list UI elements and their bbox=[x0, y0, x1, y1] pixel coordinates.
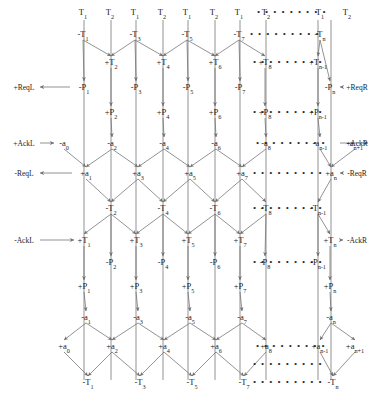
label-minus-reqr: -ReqR bbox=[347, 169, 367, 178]
node-row-minus-P-odd-2: -P5 bbox=[183, 83, 194, 92]
e-ma-pa-2 bbox=[112, 149, 138, 167]
e-mT-pT-4 bbox=[187, 40, 215, 56]
e-pa-mTe-1 bbox=[111, 179, 138, 202]
node-row-plus-P-odd-4: +Pn bbox=[324, 282, 337, 291]
node-row-plus-T-odd-4: +Tn bbox=[323, 236, 336, 245]
node-row-plus-a-even-6: +an+1 bbox=[346, 342, 364, 351]
node-row-minus-T-even-0: -T2 bbox=[105, 204, 116, 213]
e-pa-mTe-4 bbox=[190, 179, 215, 202]
e-mT-pT-2 bbox=[135, 40, 163, 56]
e-ma-pa-4 bbox=[164, 149, 190, 167]
node-row-minus-a-odd-0: -a1 bbox=[81, 313, 91, 322]
e-mTe-pTo-3 bbox=[163, 214, 188, 234]
node-row-plus-T-even-0: +T2 bbox=[104, 58, 117, 67]
node-row-minus-T-odd-2: -T5 bbox=[181, 30, 192, 39]
dots-row-plus-T-even: • • • • • • • • • bbox=[253, 57, 323, 67]
node-row-minus-a-even-3: -a6 bbox=[211, 139, 221, 148]
top-label-2: T1 bbox=[131, 8, 139, 17]
node-row-minus-T-bottom-0: -T1 bbox=[82, 378, 93, 387]
top-label-3: T2 bbox=[158, 8, 166, 17]
dots-row-plus-a-even: • • • • • • • • • bbox=[256, 341, 326, 351]
node-row-minus-a-odd-3: -a7 bbox=[237, 313, 247, 322]
e-pa-mTe-6 bbox=[242, 179, 266, 202]
e-mao-pae-0 bbox=[64, 323, 86, 340]
node-row-plus-P-even-0: +P2 bbox=[105, 108, 118, 117]
dots-row-plus-a-odd: • • • • • • • • • bbox=[253, 168, 323, 178]
e-mT-pT-5 bbox=[215, 40, 239, 56]
e-mao-pae-8 bbox=[320, 323, 331, 340]
node-row-plus-P-even-1: +P4 bbox=[157, 108, 170, 117]
dots-row-minus-T-bottom: • • • • • • • • • bbox=[253, 377, 323, 387]
label-minus-ackr: -AckR bbox=[347, 236, 367, 245]
e-mTe-pTo-0 bbox=[84, 214, 111, 234]
e-ma-pa-8 bbox=[320, 149, 331, 167]
dots-bottom-mid: • • • • • • • • • bbox=[253, 359, 323, 369]
e-mT-pT-3 bbox=[163, 40, 187, 56]
e-mTe-pTo-6 bbox=[240, 214, 266, 234]
e-ma-pa-7 bbox=[242, 149, 266, 167]
e-pa-mTe-0 bbox=[86, 179, 111, 202]
e-mT-pT-0 bbox=[83, 40, 111, 56]
node-row-plus-T-even-2: +T6 bbox=[208, 58, 221, 67]
node-row-minus-a-odd-4: -an bbox=[326, 313, 336, 322]
node-row-minus-P-odd-0: -P1 bbox=[79, 83, 90, 92]
node-row-plus-P-odd-3: +P7 bbox=[234, 282, 247, 291]
stg-diagram: T1T2T1T2T1T2T1T2T1T2• • • • • • • • •• •… bbox=[0, 0, 377, 405]
node-row-plus-T-odd-0: +T1 bbox=[77, 236, 90, 245]
e-pae-mTb-3 bbox=[140, 352, 164, 376]
node-row-minus-T-odd-3: -T7 bbox=[233, 30, 244, 39]
e-mao-pae-4 bbox=[164, 323, 190, 340]
top-label-4: T1 bbox=[183, 8, 191, 17]
node-row-minus-T-odd-1: -T3 bbox=[129, 30, 140, 39]
e-ma-pa-1 bbox=[86, 149, 112, 167]
node-row-minus-T-even-2: -T6 bbox=[209, 204, 220, 213]
node-row-minus-P-odd-3: -P7 bbox=[235, 83, 246, 92]
node-row-plus-a-even-2: +a4 bbox=[158, 342, 170, 351]
node-row-minus-a-odd-1: -a3 bbox=[133, 313, 143, 322]
dots-row-minus-a-even: • • • • • • • • • bbox=[256, 138, 326, 148]
node-row-plus-a-even-1: +a2 bbox=[106, 342, 118, 351]
node-row-plus-P-odd-2: +P5 bbox=[182, 282, 195, 291]
node-row-minus-P-even-0: -P2 bbox=[106, 258, 117, 267]
top-label-9: T2 bbox=[343, 8, 351, 17]
e-ma-pa-6 bbox=[216, 149, 242, 167]
e-ma-pa-5 bbox=[190, 149, 216, 167]
node-row-plus-a-odd-1: +a3 bbox=[132, 169, 144, 178]
top-label-5: T2 bbox=[210, 8, 218, 17]
node-row-minus-a-even-0: -a0 bbox=[59, 139, 69, 148]
node-row-minus-a-even-2: -a4 bbox=[159, 139, 169, 148]
node-row-plus-a-odd-3: +a7 bbox=[236, 169, 248, 178]
e-mao-pae-7 bbox=[242, 323, 266, 340]
e-ma-pa-0 bbox=[64, 149, 86, 167]
e-pa-mTe-3 bbox=[163, 179, 190, 202]
node-row-plus-P-even-2: +P6 bbox=[209, 108, 222, 117]
node-row-plus-P-odd-0: +P1 bbox=[78, 282, 91, 291]
label-minus-reql: -ReqL bbox=[14, 169, 33, 178]
e-ma-pa-9 bbox=[331, 149, 355, 167]
label-plus-reqr: +ReqR bbox=[346, 83, 367, 92]
dots-row-minus-T-odd: • • • • • • • • • bbox=[250, 29, 320, 39]
e-pa-mTe-7 bbox=[318, 179, 331, 202]
e-pae-mTb-5 bbox=[192, 352, 216, 376]
node-row-plus-T-odd-3: +T7 bbox=[233, 236, 246, 245]
e-mT-pT-6 bbox=[239, 40, 265, 56]
e-pae-mTb-9 bbox=[333, 352, 355, 376]
node-row-minus-T-odd-0: -T1 bbox=[77, 30, 88, 39]
dots-row-minus-P-even: • • • • • • • • • bbox=[253, 257, 323, 267]
node-row-plus-a-odd-4: +an bbox=[325, 169, 337, 178]
e-mao-pae-9 bbox=[331, 323, 355, 340]
node-row-plus-P-odd-1: +P3 bbox=[130, 282, 143, 291]
node-row-minus-a-even-1: -a2 bbox=[107, 139, 117, 148]
dots-top-row: • • • • • • • • • bbox=[257, 7, 327, 17]
node-row-minus-P-odd-1: -P3 bbox=[131, 83, 142, 92]
label-plus-ackr: +AckR bbox=[346, 139, 368, 148]
e-mao-pae-5 bbox=[190, 323, 216, 340]
node-row-plus-a-even-3: +a6 bbox=[210, 342, 222, 351]
label-plus-reql: +ReqL bbox=[14, 83, 35, 92]
top-label-6: T1 bbox=[235, 8, 243, 17]
e-mao-pae-6 bbox=[216, 323, 242, 340]
node-row-minus-P-even-2: -P6 bbox=[210, 258, 221, 267]
e-pa-mTe-5 bbox=[215, 179, 242, 202]
e-mao-pae-3 bbox=[138, 323, 164, 340]
top-label-0: T1 bbox=[79, 8, 87, 17]
